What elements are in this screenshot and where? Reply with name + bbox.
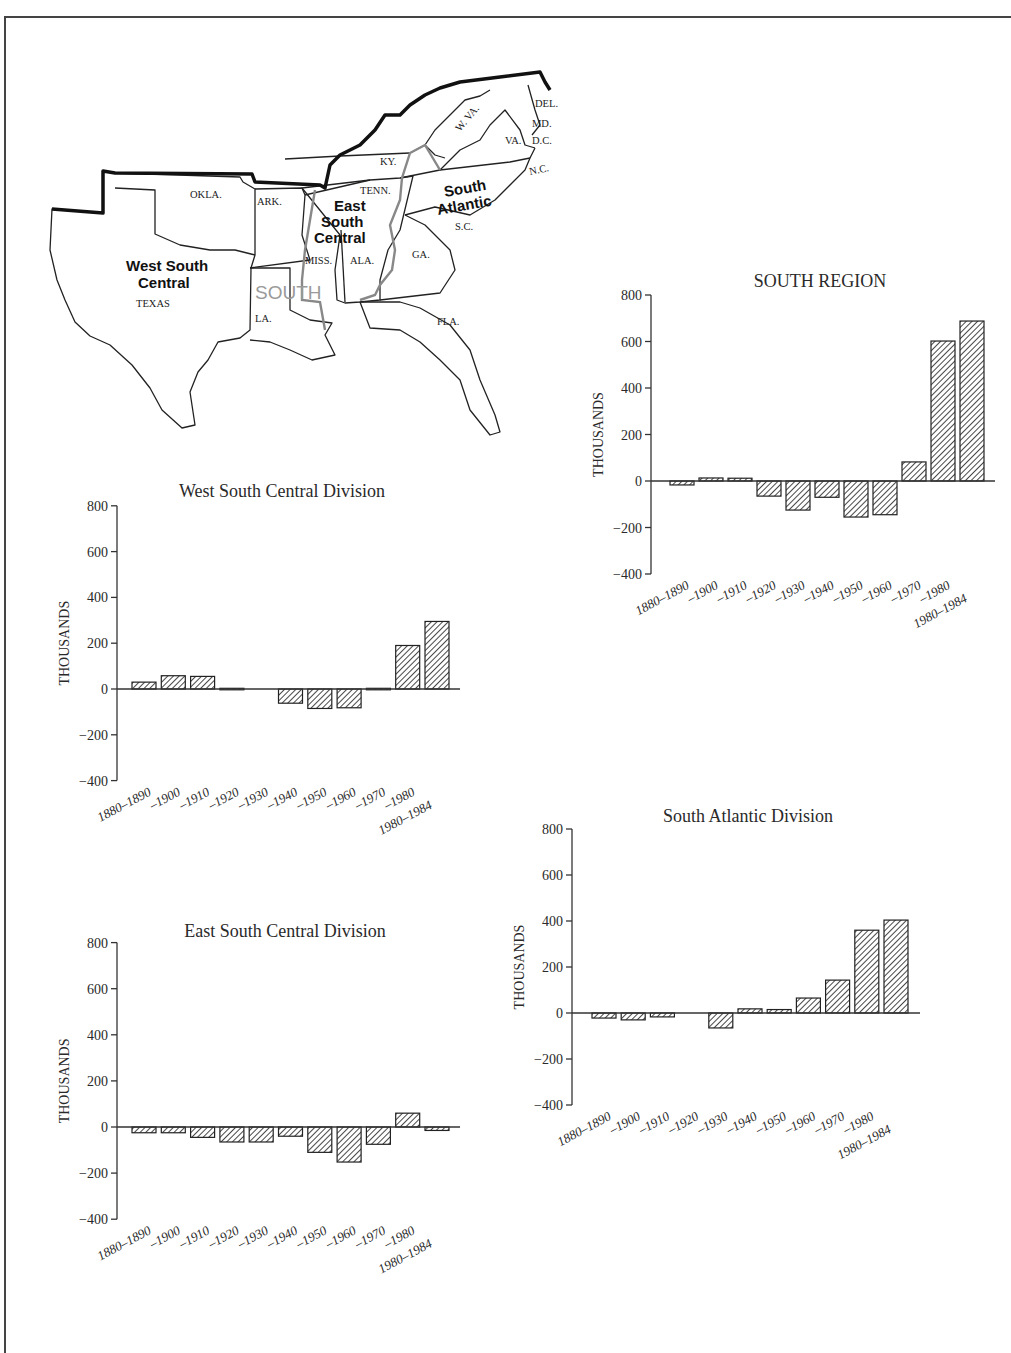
south-atlantic-svg: South Atlantic Division8006004002000−200… xyxy=(500,800,940,1180)
bar xyxy=(796,998,820,1013)
bar xyxy=(786,481,810,510)
y-tick-label: −400 xyxy=(79,774,108,789)
label-md: MD. xyxy=(532,118,552,129)
label-okla: OKLA. xyxy=(190,189,222,200)
bar xyxy=(337,689,361,708)
label-south-region: SOUTH xyxy=(255,282,322,303)
label-tenn: TENN. xyxy=(360,185,391,196)
bar xyxy=(844,481,868,517)
y-tick-label: 200 xyxy=(621,428,642,443)
south-region-map: OKLA. ARK. TEXAS LA. MISS. ALA. TENN. KY… xyxy=(40,70,600,450)
bar xyxy=(396,645,420,689)
chart-title: SOUTH REGION xyxy=(754,271,887,291)
y-tick-label: −400 xyxy=(534,1098,563,1113)
label-east-south-central-3: Central xyxy=(314,229,366,246)
label-dc: D.C. xyxy=(532,135,552,146)
label-del: DEL. xyxy=(535,98,558,109)
bar xyxy=(337,1127,361,1162)
y-tick-label: 600 xyxy=(87,545,108,560)
label-sc: S.C. xyxy=(455,221,473,232)
x-tick-label: 1880–1890 xyxy=(95,784,154,825)
label-east-south-central-2: South xyxy=(321,213,364,230)
y-tick-label: 600 xyxy=(87,982,108,997)
chart-west-south-central: West South Central Division8006004002000… xyxy=(40,475,480,859)
bar xyxy=(279,1127,303,1136)
y-tick-label: −400 xyxy=(613,567,642,582)
bar xyxy=(902,462,926,481)
florida-shape xyxy=(360,302,500,435)
label-ga: GA. xyxy=(412,249,430,260)
bar xyxy=(621,1013,645,1020)
y-axis-label: THOUSANDS xyxy=(57,1039,72,1124)
chart-south-atlantic: South Atlantic Division8006004002000−200… xyxy=(500,800,940,1184)
y-tick-label: 0 xyxy=(556,1006,563,1021)
bar xyxy=(592,1013,616,1018)
y-tick-label: 400 xyxy=(87,1028,108,1043)
y-tick-label: 600 xyxy=(621,335,642,350)
x-tick-label: 1880–1890 xyxy=(633,577,692,618)
bar xyxy=(308,1127,332,1152)
bar xyxy=(366,1127,390,1144)
division-border-east-atlantic xyxy=(360,145,440,300)
y-tick-label: −200 xyxy=(79,1166,108,1181)
y-tick-label: 800 xyxy=(87,499,108,514)
x-tick-label: 1880–1890 xyxy=(95,1222,154,1263)
bar xyxy=(161,676,185,689)
bar xyxy=(826,980,850,1013)
y-axis-label: THOUSANDS xyxy=(512,925,527,1010)
east-south-central-svg: East South Central Division8006004002000… xyxy=(40,915,480,1295)
y-tick-label: −200 xyxy=(613,521,642,536)
page-frame-left xyxy=(4,16,6,1353)
chart-east-south-central: East South Central Division8006004002000… xyxy=(40,915,480,1299)
map-svg: OKLA. ARK. TEXAS LA. MISS. ALA. TENN. KY… xyxy=(40,70,600,450)
bar xyxy=(220,1127,244,1142)
west-south-central-svg: West South Central Division8006004002000… xyxy=(40,475,480,855)
y-tick-label: 200 xyxy=(542,960,563,975)
label-va: VA. xyxy=(505,135,521,146)
bar xyxy=(396,1113,420,1127)
bar xyxy=(884,920,908,1013)
y-tick-label: 800 xyxy=(87,936,108,951)
bar xyxy=(132,1127,156,1133)
label-west-south-central-1: West South xyxy=(126,257,208,274)
y-tick-label: 600 xyxy=(542,868,563,883)
bar xyxy=(249,1127,273,1142)
chart-title: West South Central Division xyxy=(179,481,385,501)
bar xyxy=(132,682,156,689)
bar xyxy=(873,481,897,515)
bar xyxy=(308,689,332,708)
y-tick-label: 200 xyxy=(87,636,108,651)
label-ala: ALA. xyxy=(350,255,374,266)
y-tick-label: 0 xyxy=(635,474,642,489)
label-la: LA. xyxy=(255,313,272,324)
label-texas: TEXAS xyxy=(136,298,170,309)
bar xyxy=(161,1127,185,1133)
bar xyxy=(931,341,955,481)
label-east-south-central-1: East xyxy=(334,197,366,214)
label-miss: MISS. xyxy=(305,255,332,266)
label-west-south-central-2: Central xyxy=(138,274,190,291)
y-tick-label: −200 xyxy=(79,728,108,743)
bar xyxy=(425,621,449,689)
wva-border xyxy=(425,90,490,145)
y-tick-label: −200 xyxy=(534,1052,563,1067)
y-axis-label: THOUSANDS xyxy=(57,601,72,686)
y-tick-label: 800 xyxy=(542,822,563,837)
y-tick-label: 800 xyxy=(621,288,642,303)
y-axis-label: THOUSANDS xyxy=(591,392,606,477)
bar xyxy=(815,481,839,497)
bar xyxy=(960,321,984,481)
y-tick-label: 200 xyxy=(87,1074,108,1089)
y-tick-label: 400 xyxy=(542,914,563,929)
chart-title: South Atlantic Division xyxy=(663,806,833,826)
label-ky: KY. xyxy=(380,156,396,167)
x-tick-label: 1880–1890 xyxy=(555,1108,614,1149)
label-nc: N.C. xyxy=(528,162,550,177)
y-tick-label: 400 xyxy=(621,381,642,396)
oklahoma-border xyxy=(115,188,255,255)
bar xyxy=(191,676,215,689)
nc-va-border xyxy=(400,158,530,178)
bar xyxy=(709,1013,733,1028)
label-fla: FLA. xyxy=(437,316,459,327)
bar xyxy=(757,481,781,496)
